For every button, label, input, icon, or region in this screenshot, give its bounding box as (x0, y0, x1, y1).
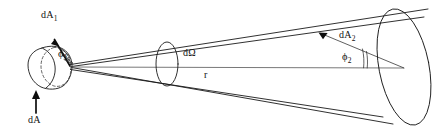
axis-line-r (71, 67, 404, 68)
solid-angle-ellipse (156, 42, 178, 86)
label-dA: dA (28, 115, 41, 125)
radiometry-solid-angle-diagram: dA1 ϕ1 dA dΩ r dA2 ϕ2 (0, 0, 448, 134)
cone-generator-upper-inner (72, 17, 425, 67)
cone-generator-lower-outer (72, 68, 394, 125)
label-d-omega: dΩ (183, 48, 196, 58)
label-r: r (204, 70, 208, 80)
label-dA2: dA2 (339, 30, 356, 43)
diagram-canvas (0, 0, 448, 134)
cone-generator-upper-outer (71, 9, 429, 65)
angle-arc-2 (367, 52, 368, 69)
angle-arc-2-secondary (363, 49, 364, 68)
cone-generator-lower-inner (71, 70, 384, 118)
label-phi1: ϕ1 (58, 49, 68, 62)
label-phi2: ϕ2 (342, 52, 352, 65)
label-dA1: dA1 (41, 10, 58, 23)
source-arrow-head (32, 90, 40, 99)
